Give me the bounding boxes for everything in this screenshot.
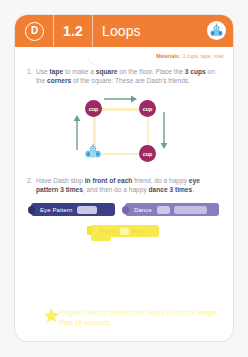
step-1-number: 1. <box>27 67 36 85</box>
cup-bottom-right: cup <box>139 145 156 162</box>
arrow-down <box>159 111 169 155</box>
eye-pattern-label: Eye Pattern <box>40 207 72 213</box>
arrow-right <box>103 90 139 108</box>
step-2: 2. Have Dash stop in front of each frien… <box>15 176 234 194</box>
header-divider-2 <box>92 15 93 47</box>
challenge-section: Program Dash to perform the Happy Dance … <box>15 303 234 337</box>
step-2-number: 2. <box>27 176 36 194</box>
repeat-block-row: Repeat times <box>15 225 234 242</box>
code-blocks-row: Eye Pattern Dance <box>15 201 234 223</box>
repeat-label-end: times <box>132 228 146 234</box>
block-connector-icon <box>28 206 35 214</box>
block-connector-icon <box>87 226 92 235</box>
step-1: 1. Use tape to make a square on the floo… <box>15 67 234 85</box>
challenge-text: Program Dash to perform the Happy Dance … <box>59 308 219 327</box>
steps-list: 1. Use tape to make a square on the floo… <box>15 67 234 242</box>
repeat-block[interactable]: Repeat times <box>91 225 159 237</box>
cup-top-right: cup <box>139 100 156 117</box>
dash-robot-icon <box>83 144 103 160</box>
eye-pattern-block[interactable]: Eye Pattern <box>31 203 115 216</box>
arrow-up <box>72 114 82 156</box>
header-divider-1 <box>53 15 54 47</box>
dance-label: Dance <box>134 207 152 213</box>
dance-field-1[interactable] <box>157 206 170 214</box>
eye-pattern-field[interactable] <box>77 206 97 214</box>
block-connector-icon <box>122 206 129 214</box>
lesson-card: D 1.2 Loops <box>14 14 234 342</box>
square-diagram: cup cup cup <box>15 89 234 167</box>
materials-value: 3 cups, tape, ruler <box>182 53 224 59</box>
materials-tab-wrap: Materials: 3 cups, tape, ruler <box>88 47 233 65</box>
repeat-count-field[interactable] <box>120 228 129 235</box>
star-icon <box>43 307 60 328</box>
dance-field-2[interactable] <box>174 206 207 214</box>
repeat-label-start: Repeat <box>99 228 117 234</box>
lesson-number: 1.2 <box>63 23 83 39</box>
dash-robot-icon <box>207 21 226 40</box>
dance-block[interactable]: Dance <box>125 203 219 216</box>
cup-top-left: cup <box>85 100 102 117</box>
page-title: Loops <box>102 23 141 39</box>
worksheet-page: D 1.2 Loops <box>0 0 248 357</box>
level-badge: D <box>25 22 44 41</box>
card-header: D 1.2 Loops <box>15 15 234 47</box>
step-1-text: Use tape to make a square on the floor. … <box>36 67 221 85</box>
step-2-text: Have Dash stop in front of each friend, … <box>36 176 221 194</box>
materials-label: Materials: <box>156 53 180 59</box>
materials-tab: Materials: 3 cups, tape, ruler <box>88 47 233 65</box>
